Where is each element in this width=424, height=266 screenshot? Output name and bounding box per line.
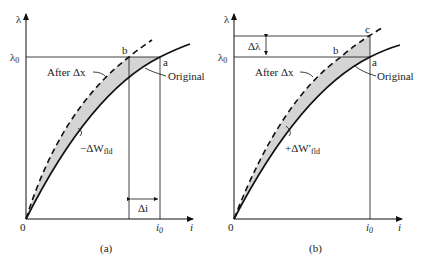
energy-label-b: +ΔW′fld [285, 143, 320, 156]
point-b-label-b: b [333, 45, 339, 56]
diagram-canvas [0, 0, 424, 266]
after-label-b: After Δx [255, 67, 294, 78]
shaded-region-a [26, 57, 160, 219]
caption-b: (b) [309, 243, 322, 254]
original-label-b: Original [377, 71, 414, 82]
panel-a [26, 14, 193, 219]
lambda0-label-a: λ0 [10, 52, 19, 65]
point-a-label-b: a [372, 57, 377, 68]
point-b-label-a: b [122, 45, 128, 56]
x-axis-label-a: i [190, 222, 193, 233]
y-axis-label-b: λ [224, 14, 229, 25]
x-axis-label-b: i [398, 222, 401, 233]
delta-lambda-label-b: Δλ [248, 41, 260, 52]
i0-label-b: i0 [366, 222, 373, 235]
shaded-region-b [234, 36, 370, 219]
after-label-a: After Δx [47, 67, 86, 78]
lambda0-label-b: λ0 [218, 52, 227, 65]
i0-label-a: i0 [156, 222, 163, 235]
delta-i-label-a: Δi [138, 203, 148, 214]
origin-label-b: 0 [228, 222, 234, 233]
caption-a: (a) [100, 243, 112, 254]
point-c-label-b: c [365, 24, 370, 35]
point-a-label-a: a [163, 57, 168, 68]
original-label-a: Original [168, 71, 205, 82]
origin-label-a: 0 [20, 222, 26, 233]
y-axis-label-a: λ [16, 14, 21, 25]
energy-label-a: −ΔWfld [80, 143, 113, 156]
